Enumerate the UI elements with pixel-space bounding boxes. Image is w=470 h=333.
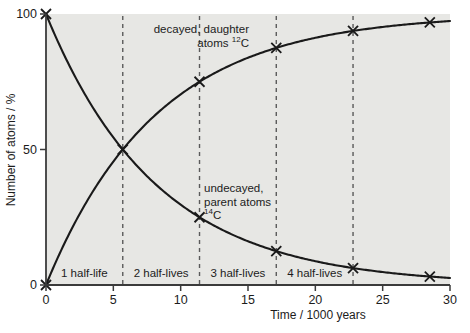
y-axis-tick-labels: 050100 — [16, 7, 37, 292]
x-tick-label-4: 20 — [308, 293, 322, 307]
y-tick-label-1: 50 — [23, 143, 37, 157]
band-label-4: 4 half-lives — [287, 267, 342, 279]
x-tick-label-2: 10 — [174, 293, 188, 307]
x-tick-label-5: 25 — [376, 293, 390, 307]
x-tick-label-6: 30 — [443, 293, 457, 307]
decayed-label-line2: atoms 12C — [197, 35, 249, 49]
x-tick-label-0: 0 — [43, 293, 50, 307]
undecayed-label-line1: undecayed, — [204, 182, 263, 194]
y-tick-label-2: 100 — [16, 7, 37, 21]
undecayed-label-element: C — [213, 209, 221, 221]
band-label-2: 2 half-lives — [134, 267, 189, 279]
x-axis-title: Time / 1000 years — [270, 308, 366, 322]
band-label-1: 1 half-life — [61, 267, 108, 279]
undecayed-label-line2: parent atoms — [204, 196, 271, 208]
x-tick-label-3: 15 — [241, 293, 255, 307]
radiocarbon-decay-chart: 051015202530 050100 1 half-life2 half-li… — [0, 0, 470, 333]
x-tick-label-1: 5 — [110, 293, 117, 307]
x-axis-tick-labels: 051015202530 — [43, 293, 457, 307]
y-axis-title: Number of atoms / % — [4, 93, 18, 206]
decayed-label-atoms: atoms — [197, 37, 229, 49]
chart-figure: 051015202530 050100 1 half-life2 half-li… — [0, 0, 470, 333]
y-tick-label-0: 0 — [30, 278, 37, 292]
decayed-label-element: C — [241, 37, 249, 49]
band-label-3: 3 half-lives — [210, 267, 265, 279]
plot-area-background — [46, 14, 450, 285]
decayed-label-line1: decayed, daughter — [154, 23, 249, 35]
